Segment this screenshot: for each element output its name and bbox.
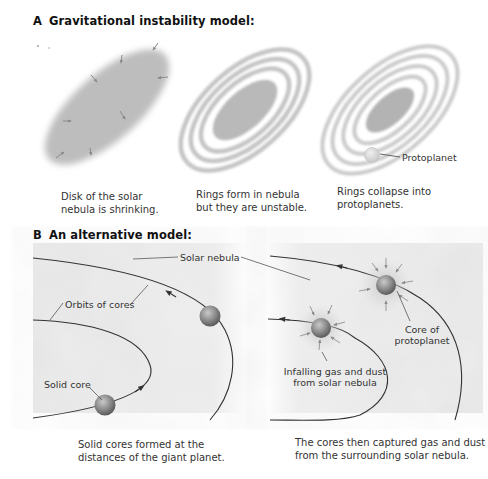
label-protoplanet: Protoplanet	[402, 152, 457, 163]
label-solar-nebula: Solar nebula	[180, 252, 240, 263]
unstable-rings	[160, 27, 331, 192]
panel-b-heading: BAn alternative model:	[33, 228, 192, 242]
shrinking-disk	[27, 30, 187, 183]
core-of-protoplanet-sphere	[376, 275, 396, 295]
caption-captured-gas: The cores then captured gas and dust fro…	[295, 437, 485, 462]
panel-b-title: An alternative model:	[49, 228, 192, 242]
caption-stage-1: Disk of the solar nebula is shrinking.	[61, 191, 159, 216]
caption-solid-cores: Solid cores formed at the distances of t…	[78, 439, 225, 464]
inner-solid-core	[95, 395, 116, 416]
panel-b-letter: B	[33, 228, 42, 242]
dust-specks	[37, 45, 50, 49]
protoplanet-sphere	[365, 148, 380, 163]
caption-stage-2: Rings form in nebula but they are unstab…	[196, 189, 307, 214]
label-infalling-gas: Infalling gas and dust from solar nebula	[282, 366, 388, 388]
label-solid-core: Solid core	[44, 379, 91, 390]
collapsing-rings	[300, 23, 479, 197]
outer-solid-core	[200, 306, 221, 327]
accreting-core-sphere	[311, 318, 331, 338]
label-core-of-protoplanet: Core of protoplanet	[392, 324, 452, 346]
label-orbits-of-cores: Orbits of cores	[65, 299, 134, 310]
caption-stage-3: Rings collapse into protoplanets.	[337, 186, 431, 211]
